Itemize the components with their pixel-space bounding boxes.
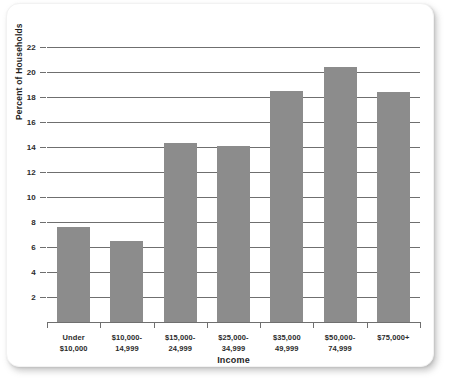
plot-area: 246810121416182022 (47, 47, 420, 322)
y-axis-tick-label: 6 (31, 243, 36, 252)
x-axis-category-label: $75,000+ (362, 332, 424, 343)
bar (164, 143, 197, 322)
x-axis-tick (260, 322, 261, 328)
y-axis-tick (40, 172, 46, 173)
y-axis-tick-label: 2 (31, 293, 36, 302)
y-axis-tick (40, 272, 46, 273)
y-axis-tick (40, 72, 46, 73)
bar (110, 241, 143, 322)
y-axis-tick-label: 4 (31, 268, 36, 277)
y-axis-tick-label: 8 (31, 218, 36, 227)
y-axis-tick (40, 247, 46, 248)
y-axis-tick-label: 10 (27, 193, 36, 202)
y-axis-tick (40, 222, 46, 223)
y-axis-tick-label: 14 (27, 143, 36, 152)
y-axis-tick (40, 297, 46, 298)
y-axis-tick-label: 16 (27, 118, 36, 127)
bar (217, 146, 250, 322)
y-axis-tick (40, 47, 46, 48)
x-axis-tick (100, 322, 101, 328)
y-axis-title: Percent of Households (14, 23, 24, 120)
screenshot-root: Percent of Households 246810121416182022… (0, 0, 449, 382)
y-axis-tick-label: 22 (27, 43, 36, 52)
y-axis-tick-label: 12 (27, 168, 36, 177)
x-axis-tick (47, 322, 48, 328)
y-axis-tick-label: 20 (27, 68, 36, 77)
bar (324, 67, 357, 322)
x-axis-line (47, 322, 421, 323)
x-axis-category-label-line: 74,999 (309, 343, 371, 354)
y-axis-tick (40, 147, 46, 148)
x-axis-tick (313, 322, 314, 328)
bar (377, 92, 410, 322)
bar-chart: Percent of Households 246810121416182022… (0, 0, 449, 382)
x-axis-tick (207, 322, 208, 328)
x-axis-title: Income (47, 355, 420, 365)
bar (270, 91, 303, 322)
bar (57, 227, 90, 322)
y-axis-tick (40, 197, 46, 198)
x-axis-tick (420, 322, 421, 328)
x-axis-category-label-line: $75,000+ (362, 332, 424, 343)
x-axis-tick (367, 322, 368, 328)
y-axis-tick (40, 97, 46, 98)
bar-series (47, 47, 420, 322)
x-axis-tick (154, 322, 155, 328)
y-axis-tick (40, 122, 46, 123)
y-axis-tick-label: 18 (27, 93, 36, 102)
